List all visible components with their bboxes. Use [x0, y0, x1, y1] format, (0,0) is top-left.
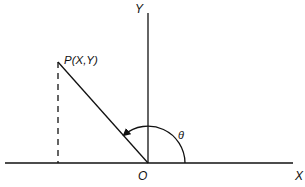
y-axis-label: Y — [135, 2, 144, 16]
x-axis-label: X — [294, 169, 304, 183]
angle-theta-label: θ — [178, 129, 184, 141]
polar-angle-diagram: Y X O P(X,Y) θ — [0, 0, 305, 187]
radius-line-op — [58, 62, 148, 163]
angle-arc — [124, 126, 185, 163]
origin-label: O — [138, 169, 147, 183]
point-label: P(X,Y) — [64, 54, 98, 66]
